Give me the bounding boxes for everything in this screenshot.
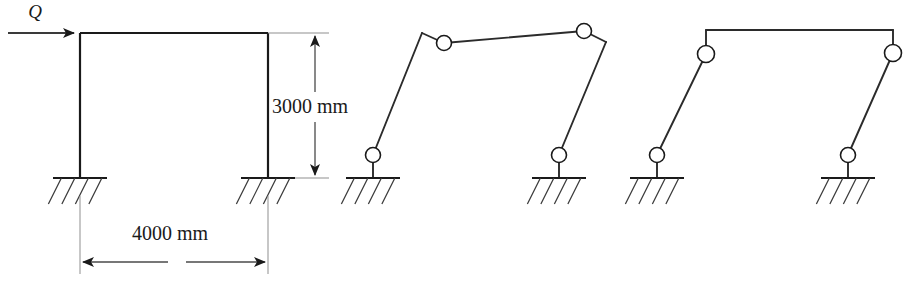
support-hatch-line xyxy=(625,178,638,204)
support-hatch-line xyxy=(382,178,395,204)
frame-members xyxy=(80,33,268,178)
structural-figure: Q 3000 mm 4000 mm xyxy=(0,0,908,282)
width-dimension-label: 4000 mm xyxy=(132,222,209,244)
mechanism-diagram-svg: Q 3000 mm 4000 mm xyxy=(0,0,908,282)
support-hatch-line xyxy=(341,178,354,204)
combined-supports xyxy=(341,155,586,204)
width-dimension: 4000 mm xyxy=(80,196,268,274)
support-hatch-line xyxy=(62,178,75,204)
support-hatch-line xyxy=(652,178,665,204)
support-hatch-line xyxy=(857,178,870,204)
support-hatch-line xyxy=(830,178,843,204)
hinge-joint-left xyxy=(698,46,715,63)
hinge-beam-right xyxy=(577,24,592,39)
left-fixed-support xyxy=(48,178,107,204)
support-hatch-line xyxy=(554,178,567,204)
hinge-joint-right xyxy=(885,45,902,62)
sway-hinges xyxy=(650,45,902,163)
combined-members xyxy=(373,31,606,155)
panel-sway-mechanism xyxy=(625,30,901,204)
panel-rigid-frame xyxy=(48,33,295,204)
support-hatch-line xyxy=(355,178,368,204)
support-hatch-line xyxy=(277,178,290,204)
support-hatch-line xyxy=(250,178,263,204)
support-hatch-line xyxy=(816,178,829,204)
support-hatch-line xyxy=(48,178,61,204)
support-hatch-line xyxy=(89,178,102,204)
top-beam-member xyxy=(444,31,584,43)
panel-combined-mechanism xyxy=(341,24,606,205)
frame-supports xyxy=(48,178,295,204)
height-dimension-label: 3000 mm xyxy=(272,95,349,117)
support-hatch-line xyxy=(236,178,249,204)
combined-hinges xyxy=(366,24,592,163)
load-label: Q xyxy=(28,1,42,22)
height-dimension: 3000 mm xyxy=(268,33,349,178)
support-hatch-line xyxy=(843,178,856,204)
hinge-base-left xyxy=(366,148,381,163)
support-hatch-line xyxy=(75,178,88,204)
right-column-member xyxy=(559,42,606,155)
support-hatch-line xyxy=(666,178,679,204)
left-column-member xyxy=(657,54,706,155)
left-column-member xyxy=(373,33,422,155)
right-column-member xyxy=(848,53,893,155)
support-hatch-line xyxy=(263,178,276,204)
support-hatch-line xyxy=(639,178,652,204)
hinge-base-right xyxy=(841,148,856,163)
hinge-base-left xyxy=(650,148,665,163)
applied-load-q: Q xyxy=(8,1,74,33)
support-hatch-line xyxy=(368,178,381,204)
support-hatch-line xyxy=(541,178,554,204)
support-hatch-line xyxy=(527,178,540,204)
right-fixed-support xyxy=(236,178,295,204)
hinge-base-right xyxy=(552,148,567,163)
support-hatch-line xyxy=(568,178,581,204)
sway-supports xyxy=(625,155,875,204)
sway-members xyxy=(657,30,893,155)
hinge-beam-left xyxy=(437,36,452,51)
